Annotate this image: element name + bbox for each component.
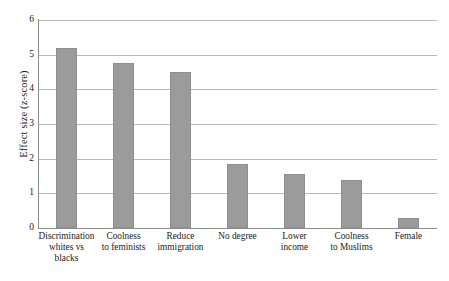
bar [227,164,248,228]
x-tick-label: Lower income [262,231,327,253]
x-tick-label: Female [376,231,441,242]
x-tick-label: Reduce immigration [148,231,213,253]
y-tick-label-4: 4 [8,84,34,94]
bars-container [38,20,437,228]
bar [170,72,191,228]
x-tick-label: Discrimination whites vs blacks [34,231,99,265]
bar [398,218,419,228]
bar [341,180,362,229]
bar-chart-figure: Effect size (z-score) 0123456 Discrimina… [0,0,449,281]
x-axis-tick-labels: Discrimination whites vs blacksCoolness … [38,231,437,279]
y-tick-label-1: 1 [8,188,34,198]
y-axis-tick-labels: 0123456 [6,20,34,228]
x-axis-line [38,228,437,229]
y-tick-label-3: 3 [8,119,34,129]
bar [56,48,77,228]
x-tick-label: Coolness to Muslims [319,231,384,253]
y-tick-label-5: 5 [8,50,34,60]
x-tick-label: Coolness to feminists [91,231,156,253]
bar [113,63,134,228]
bar [284,174,305,228]
y-tick-label-0: 0 [8,223,34,233]
y-tick-label-2: 2 [8,154,34,164]
y-tick-label-6: 6 [8,15,34,25]
x-tick-label: No degree [205,231,270,242]
